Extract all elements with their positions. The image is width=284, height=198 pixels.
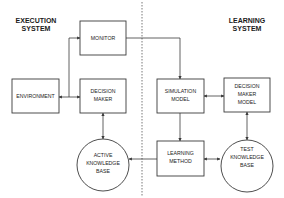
learning-system-label: LEARNING SYSTEM [229,17,266,32]
test-knowledge-base-node: TEST KNOWLEDGE BASE [221,140,273,192]
svg-text:ACTIVE: ACTIVE [94,152,113,158]
svg-text:DECISION: DECISION [90,88,115,94]
svg-text:MODEL: MODEL [171,96,190,102]
environment-node: ENVIRONMENT [12,79,59,113]
svg-text:MODEL: MODEL [238,99,257,105]
svg-text:KNOWLEDGE: KNOWLEDGE [86,160,120,166]
svg-text:KNOWLEDGE: KNOWLEDGE [230,154,264,160]
svg-text:SIMULATION: SIMULATION [165,88,197,94]
decision-maker-node: DECISION MAKER [80,79,126,113]
svg-text:MONITOR: MONITOR [91,35,116,41]
svg-text:SYSTEM: SYSTEM [233,25,262,32]
learning-method-node: LEARNING METHOD [157,141,204,176]
svg-text:METHOD: METHOD [169,158,192,164]
svg-text:MAKER: MAKER [94,96,113,102]
svg-text:MAKER: MAKER [238,91,257,97]
svg-text:BASE: BASE [96,168,110,174]
svg-text:EXECUTION: EXECUTION [16,17,57,24]
junction-monitor-connector [69,38,80,97]
decision-maker-model-node: DECISION MAKER MODEL [224,78,270,112]
svg-text:TEST: TEST [240,146,254,152]
execution-system-label: EXECUTION SYSTEM [16,17,57,32]
svg-text:DECISION: DECISION [234,83,259,89]
monitor-sim-connector [126,38,180,79]
active-knowledge-base-node: ACTIVE KNOWLEDGE BASE [77,139,129,191]
simulation-model-node: SIMULATION MODEL [157,79,204,113]
svg-text:LEARNING: LEARNING [229,17,266,24]
svg-text:SYSTEM: SYSTEM [22,25,51,32]
system-diagram: EXECUTION SYSTEM LEARNING SYSTEM MONITOR… [0,0,284,198]
svg-text:BASE: BASE [240,162,254,168]
monitor-node: MONITOR [80,21,126,55]
svg-text:LEARNING: LEARNING [167,150,194,156]
svg-text:ENVIRONMENT: ENVIRONMENT [16,93,55,99]
